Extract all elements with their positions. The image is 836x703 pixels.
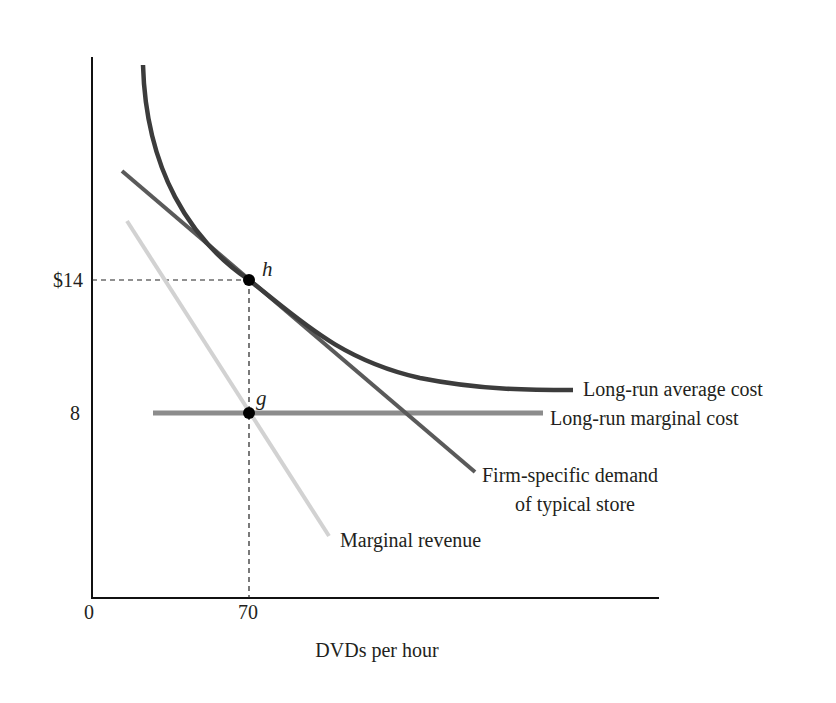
mr-label: Marginal revenue — [340, 529, 481, 552]
demand-label-line1: Firm-specific demand — [482, 464, 658, 487]
point-g-label: g — [256, 386, 267, 410]
lrac-label: Long-run average cost — [583, 378, 763, 401]
point-g — [243, 407, 255, 419]
y-tick-14: $14 — [53, 269, 83, 291]
lrmc-label: Long-run marginal cost — [550, 407, 739, 430]
point-h-label: h — [262, 257, 273, 281]
chart: h g $14 8 0 70 DVDs per hour Long-run av… — [0, 0, 836, 703]
x-tick-0: 0 — [84, 601, 94, 623]
y-tick-8: 8 — [70, 402, 80, 424]
x-tick-70: 70 — [238, 601, 258, 623]
point-h — [243, 274, 255, 286]
demand-label-line2: of typical store — [515, 493, 635, 516]
lrac-curve — [143, 65, 573, 390]
x-axis-label: DVDs per hour — [315, 639, 439, 662]
marginal-revenue-line — [127, 221, 329, 536]
